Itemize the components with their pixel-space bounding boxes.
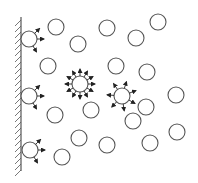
arrow-icon (114, 84, 118, 90)
wall-hatch (15, 38, 21, 44)
arrow-icon (35, 28, 40, 33)
free-particle (128, 30, 144, 46)
free-particle (168, 87, 184, 103)
arrow-icon (123, 104, 124, 111)
particle-circle (21, 31, 37, 47)
free-particle (150, 14, 166, 30)
wall-hatch (15, 20, 21, 26)
arrow-icon (33, 103, 37, 109)
free-particle (40, 58, 56, 74)
arrow-icon (84, 71, 88, 77)
wall-hatch (15, 146, 21, 152)
wall-hatch (15, 134, 21, 140)
particle-circle (72, 76, 88, 92)
wall-hatch (15, 152, 21, 158)
wall-hatch (15, 98, 21, 104)
free-particle (108, 58, 124, 74)
particle-wall-diagram (0, 0, 198, 183)
wall-hatch (15, 122, 21, 128)
diagram-canvas (0, 0, 198, 183)
arrow-icon (84, 91, 88, 97)
free-particle (71, 130, 87, 146)
wall-hatch (15, 68, 21, 74)
wall-hatch (15, 62, 21, 68)
arrow-icon (67, 88, 73, 92)
wall-hatch (15, 104, 21, 110)
wall-hatch (15, 164, 21, 170)
arrow-icon (87, 77, 93, 81)
arrow-icon (129, 100, 135, 104)
free-particle (48, 19, 64, 35)
free-particle (47, 107, 63, 123)
wall-hatch (15, 92, 21, 98)
wall-hatch (15, 128, 21, 134)
arrow-icon (107, 95, 114, 96)
particle-circle (21, 88, 37, 104)
arrow-icon (112, 102, 117, 107)
arrow-icon (34, 157, 38, 163)
wall-hatch (15, 44, 21, 50)
wall-hatch (15, 140, 21, 146)
hatched-wall (15, 17, 21, 176)
wall-hatch (15, 116, 21, 122)
arrow-icon (73, 91, 77, 97)
free-particle (125, 113, 141, 129)
wall-hatch (15, 158, 21, 164)
emitting-particle (107, 82, 136, 111)
arrow-icon (35, 85, 40, 90)
arrow-icon (73, 71, 77, 77)
wall-hatch (15, 50, 21, 56)
particle-circle (22, 142, 38, 158)
free-particle (99, 137, 115, 153)
arrow-icon (67, 77, 73, 81)
free-particle (138, 99, 154, 115)
arrow-icon (124, 82, 126, 89)
wall-hatch (15, 74, 21, 80)
wall-hatch (15, 26, 21, 32)
wall-particle (21, 85, 44, 109)
arrow-icon (36, 139, 41, 144)
arrow-icon (33, 46, 37, 52)
emitting-particles (65, 69, 136, 111)
wall-hatch (15, 32, 21, 38)
free-particle (139, 64, 155, 80)
free-particle (70, 36, 86, 52)
free-particles (40, 14, 185, 165)
wall-particle (21, 28, 44, 52)
free-particle (83, 102, 99, 118)
wall-hatch (15, 86, 21, 92)
particle-circle (114, 88, 130, 104)
wall-hatch (15, 56, 21, 62)
wall-hatch (15, 80, 21, 86)
arrow-icon (129, 91, 136, 94)
free-particle (142, 135, 158, 151)
wall-hatch (15, 110, 21, 116)
wall-particle (22, 139, 45, 163)
wall-hatch (15, 170, 21, 176)
free-particle (169, 124, 185, 140)
arrow-icon (87, 88, 93, 92)
wall-adsorbed-particles (21, 28, 45, 163)
free-particle (99, 20, 115, 36)
emitting-particle (65, 69, 95, 99)
free-particle (54, 149, 70, 165)
